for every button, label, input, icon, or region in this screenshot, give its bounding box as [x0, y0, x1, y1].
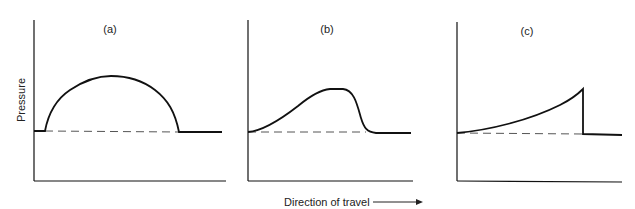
panel-a-label: (a): [103, 23, 116, 35]
panel-b-label: (b): [320, 23, 333, 35]
panel-c: (c): [457, 22, 622, 182]
y-axis-label: Pressure: [15, 78, 27, 122]
arrow-right-icon: [373, 199, 423, 205]
panel-a: (a): [34, 20, 226, 181]
pressure-diagram: Pressure (a) (b) (c) Direction of travel: [0, 0, 635, 209]
panel-b: (b): [248, 20, 413, 181]
x-axis-label: Direction of travel: [284, 196, 370, 208]
panel-c-label: (c): [521, 25, 534, 37]
